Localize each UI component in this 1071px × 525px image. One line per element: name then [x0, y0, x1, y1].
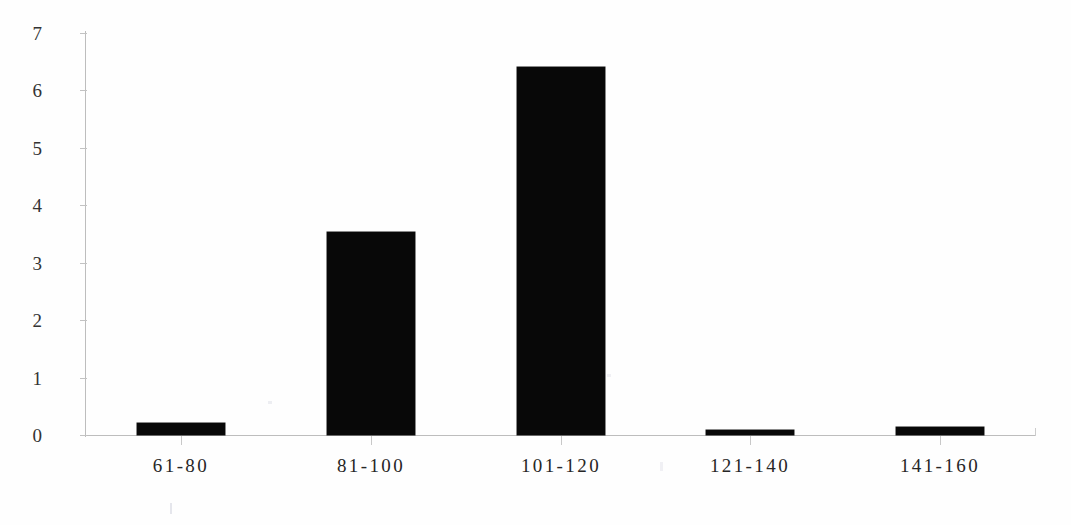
- y-axis-tick-label: 4: [8, 196, 42, 215]
- y-axis-tick-label: 2: [8, 311, 42, 330]
- x-axis-tick: [371, 436, 372, 445]
- y-axis-tick-label: 3: [8, 254, 42, 273]
- y-axis-tick-label: 0: [8, 426, 42, 445]
- y-axis-tick-label: 7: [8, 24, 42, 43]
- y-axis-tick-label: 1: [8, 369, 42, 388]
- bar-series-item: [896, 427, 984, 435]
- y-axis-tick-label: 6: [8, 81, 42, 100]
- plot-area: [86, 33, 1035, 435]
- y-axis-tick-label: 5: [8, 139, 42, 158]
- y-axis-tick: [80, 435, 87, 436]
- x-axis-end-cap: [1035, 428, 1036, 436]
- bar-series-item: [137, 423, 225, 435]
- scan-artifact-mark: [170, 503, 172, 514]
- scan-artifact-mark: [607, 374, 611, 377]
- scan-artifact-mark: [268, 401, 272, 404]
- x-axis-tick: [940, 436, 941, 445]
- x-axis-category-label: 81-100: [276, 455, 466, 477]
- x-axis-category-label: 121-140: [655, 455, 845, 477]
- bar-chart-figure: 7 6 5 4 3 2 1 0 61-80 81-100 101-120 121…: [0, 0, 1071, 525]
- x-axis-category-label: 101-120: [466, 455, 656, 477]
- x-axis-category-label: 61-80: [86, 455, 276, 477]
- x-axis-tick: [181, 436, 182, 445]
- x-axis-category-label: 141-160: [845, 455, 1035, 477]
- scan-artifact-mark: [660, 462, 663, 471]
- x-axis-tick: [750, 436, 751, 445]
- bar-series-item: [706, 430, 794, 435]
- x-axis-tick: [561, 436, 562, 445]
- bar-series-item: [327, 232, 415, 435]
- bar-series-item: [517, 67, 605, 435]
